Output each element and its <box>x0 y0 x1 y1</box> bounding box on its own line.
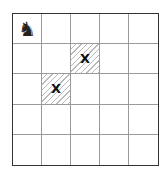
cell-r1c1[interactable] <box>42 44 71 74</box>
cell-r2c1-marked[interactable]: X <box>42 74 71 104</box>
x-mark: X <box>51 81 61 96</box>
chess-board: ♞ X X <box>12 13 159 166</box>
cell-r0c4[interactable] <box>129 14 158 44</box>
cell-r1c3[interactable] <box>100 44 129 74</box>
cell-r4c2[interactable] <box>71 135 100 165</box>
cell-r3c4[interactable] <box>129 105 158 135</box>
cell-r1c4[interactable] <box>129 44 158 74</box>
cell-r4c1[interactable] <box>42 135 71 165</box>
cell-r0c0[interactable]: ♞ <box>13 14 42 44</box>
cell-r2c2[interactable] <box>71 74 100 104</box>
cell-r4c0[interactable] <box>13 135 42 165</box>
cell-r0c3[interactable] <box>100 14 129 44</box>
cell-r2c0[interactable] <box>13 74 42 104</box>
cell-r3c2[interactable] <box>71 105 100 135</box>
cell-r0c2[interactable] <box>71 14 100 44</box>
cell-r1c0[interactable] <box>13 44 42 74</box>
cell-r0c1[interactable] <box>42 14 71 44</box>
x-mark: X <box>80 51 90 66</box>
cell-r3c3[interactable] <box>100 105 129 135</box>
cell-r3c0[interactable] <box>13 105 42 135</box>
cell-r2c4[interactable] <box>129 74 158 104</box>
knight-icon[interactable]: ♞ <box>18 19 36 39</box>
cell-r3c1[interactable] <box>42 105 71 135</box>
cell-r4c4[interactable] <box>129 135 158 165</box>
cell-r1c2-marked[interactable]: X <box>71 44 100 74</box>
cell-r4c3[interactable] <box>100 135 129 165</box>
cell-r2c3[interactable] <box>100 74 129 104</box>
